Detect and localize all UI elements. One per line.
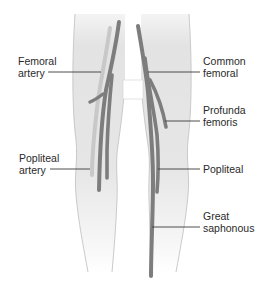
label-great-saphonous: Great saphonous xyxy=(203,210,254,234)
label-popliteal-artery: Popliteal artery xyxy=(19,152,59,176)
label-common-femoral: Common femoral xyxy=(203,55,246,79)
label-femoral-artery: Femoral artery xyxy=(18,55,57,79)
leg-vessel-diagram xyxy=(0,0,266,287)
label-profunda-femoris: Profunda femoris xyxy=(203,104,246,128)
right-leg-outline xyxy=(141,14,191,272)
label-popliteal: Popliteal xyxy=(203,163,243,175)
crotch-gap xyxy=(123,80,143,99)
